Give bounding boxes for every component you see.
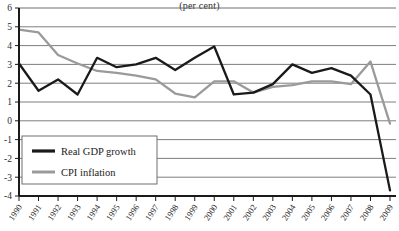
- x-axis-tick-label: 1993: [65, 203, 83, 223]
- x-axis-tick-label: 1999: [182, 203, 200, 223]
- x-axis-tick-label: 2001: [221, 203, 239, 223]
- x-axis-tick-label: 1998: [162, 203, 180, 223]
- legend-label: Real GDP growth: [61, 146, 137, 157]
- x-axis-tick-label: 2005: [299, 203, 317, 223]
- legend-label: CPI inflation: [61, 167, 116, 178]
- y-axis-tick-label: 2: [7, 79, 12, 89]
- x-axis-tick-label: 1992: [45, 203, 63, 223]
- y-axis-tick-label: -1: [4, 135, 12, 145]
- y-axis-tick-label: 3: [7, 60, 12, 70]
- x-axis-tick-label: 1996: [123, 202, 141, 222]
- x-axis-tick-label: 2000: [202, 203, 220, 223]
- y-axis-tick-label: 6: [7, 3, 12, 13]
- x-axis-tick-label: 2006: [319, 202, 337, 222]
- y-axis-tick-label: 1: [7, 97, 12, 107]
- chart-container: (per cent) 6543210-1-2-3-4 1990199119921…: [0, 0, 399, 231]
- chart-legend: Real GDP growthCPI inflation: [22, 136, 157, 184]
- y-axis-tick-label: 5: [7, 22, 12, 32]
- x-axis-tick-label: 2004: [280, 202, 298, 222]
- x-axis-tick-label: 1997: [143, 202, 161, 222]
- y-axis-tick-label: -4: [4, 191, 12, 201]
- y-axis-tick-label: 0: [7, 116, 12, 126]
- x-axis-tick-label: 2009: [377, 203, 395, 223]
- series-line: [19, 30, 390, 124]
- x-axis-ticks-group: 1990199119921993199419951996199719981999…: [6, 196, 395, 222]
- x-axis-tick-label: 2007: [338, 202, 356, 222]
- x-axis-tick-label: 1994: [84, 202, 102, 222]
- y-axis-tick-label: -2: [4, 154, 12, 164]
- x-axis-tick-label: 1991: [26, 203, 44, 223]
- y-axis-ticks-group: 6543210-1-2-3-4: [4, 3, 19, 201]
- x-axis-tick-label: 1990: [6, 203, 24, 223]
- y-axis-tick-label: 4: [7, 41, 12, 51]
- x-axis-tick-label: 2003: [260, 203, 278, 223]
- line-chart: 6543210-1-2-3-4 199019911992199319941995…: [0, 0, 399, 231]
- x-axis-tick-label: 1995: [104, 203, 122, 223]
- x-axis-tick-label: 2002: [241, 203, 259, 223]
- y-axis-tick-label: -3: [4, 173, 12, 183]
- x-axis-tick-label: 2008: [358, 203, 376, 223]
